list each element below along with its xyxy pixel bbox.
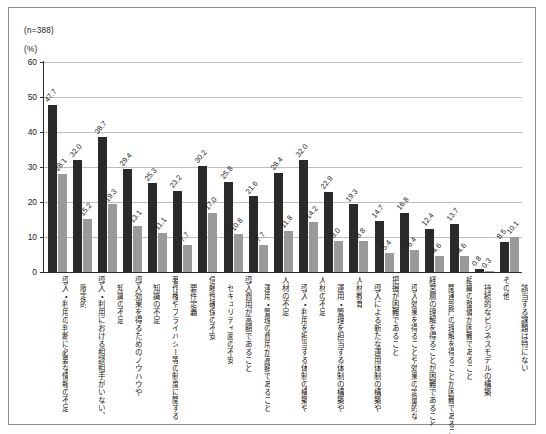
- y-axis-tick-label: 50: [28, 93, 37, 101]
- bar-light: [485, 271, 494, 272]
- y-axis-tick: [40, 272, 44, 273]
- bar-light: [108, 204, 117, 272]
- bar-group: 8.510.1: [500, 62, 525, 272]
- bar-group: 22.99.0: [324, 62, 349, 272]
- bar-light: [158, 233, 167, 272]
- bar-dark: [500, 242, 509, 272]
- x-axis-category-label: 該当する課題は特にない: [502, 284, 528, 434]
- chart-page: (n=388) (%) 010203040506047.728.132.015.…: [0, 0, 546, 434]
- bar-group: 32.015.2: [73, 62, 98, 272]
- bar-dark: [198, 166, 207, 272]
- bar-value-label: 47.7: [43, 88, 58, 104]
- bar-group: 12.44.6: [425, 62, 450, 272]
- bar-light: [510, 237, 519, 272]
- y-axis-tick-label: 10: [28, 233, 37, 241]
- bar-light: [83, 219, 92, 272]
- y-axis-tick-label: 20: [28, 198, 37, 206]
- bar-light: [385, 253, 394, 272]
- bar-light: [460, 256, 469, 272]
- bar-light: [334, 241, 343, 273]
- bar-group: 25.810.8: [224, 62, 249, 272]
- bar-light: [234, 234, 243, 272]
- bar-light: [208, 213, 217, 273]
- bar-group: 0.80.3: [475, 62, 500, 272]
- bar-dark: [475, 269, 484, 272]
- bar-light: [183, 245, 192, 272]
- bar-group: 16.86.4: [400, 62, 425, 272]
- bar-dark: [173, 191, 182, 272]
- bar-light: [58, 174, 67, 272]
- y-axis-tick: [40, 167, 44, 168]
- y-axis-tick-label: 60: [28, 58, 37, 66]
- bar-dark: [349, 204, 358, 272]
- unit-note: (%): [24, 45, 37, 54]
- bar-light: [259, 245, 268, 272]
- bar-group: 23.27.7: [173, 62, 198, 272]
- y-axis-tick: [40, 237, 44, 238]
- bar-group: 28.411.8: [274, 62, 299, 272]
- bar-group: 30.217.0: [198, 62, 223, 272]
- bar-group: 25.311.1: [148, 62, 173, 272]
- bar-light: [133, 226, 142, 272]
- y-axis-tick: [40, 202, 44, 203]
- y-axis-tick-label: 0: [32, 268, 37, 276]
- bar-group: 19.38.8: [349, 62, 374, 272]
- bar-light: [284, 231, 293, 272]
- x-axis-line: [43, 272, 522, 273]
- bar-value-label: 0.3: [480, 257, 492, 270]
- bar-dark: [73, 160, 82, 272]
- y-axis-tick: [40, 62, 44, 63]
- bar-light: [435, 256, 444, 272]
- y-axis-tick-label: 30: [28, 163, 37, 171]
- bar-light: [309, 222, 318, 272]
- y-axis-tick-label: 40: [28, 128, 37, 136]
- bar-group: 13.74.6: [450, 62, 475, 272]
- bar-group: 14.75.4: [375, 62, 400, 272]
- bar-group: 29.413.1: [123, 62, 148, 272]
- bar-group: 38.719.3: [98, 62, 123, 272]
- sample-size-note: (n=388): [24, 26, 54, 35]
- bar-group: 47.728.1: [48, 62, 73, 272]
- bar-group: 32.014.2: [299, 62, 324, 272]
- bar-dark: [48, 105, 57, 272]
- y-axis-tick: [40, 132, 44, 133]
- bar-light: [410, 250, 419, 272]
- bar-value-label: 10.1: [506, 219, 521, 235]
- bar-light: [359, 241, 368, 272]
- plot-area: 010203040506047.728.132.015.238.719.329.…: [44, 62, 522, 272]
- bar-dark: [98, 137, 107, 272]
